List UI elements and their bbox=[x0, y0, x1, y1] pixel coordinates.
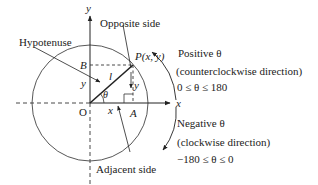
negative-rotation-arrow bbox=[163, 107, 176, 150]
negative-direction: (clockwise direction) bbox=[177, 136, 270, 149]
x-axis-label: x bbox=[175, 97, 181, 109]
adjacent-callout: Adjacent side bbox=[96, 163, 156, 175]
unit-circle-diagram: y x O B A P(x, y) y l y x θ Hypotenuse O… bbox=[0, 0, 318, 185]
hypotenuse-callout: Hypotenuse bbox=[19, 36, 72, 48]
hypotenuse-length-label: l bbox=[109, 70, 112, 82]
negative-title: Negative θ bbox=[177, 117, 225, 129]
opposite-length-label: y bbox=[133, 79, 139, 91]
opposite-leader bbox=[123, 25, 131, 68]
adjacent-leader bbox=[118, 106, 130, 152]
positive-direction: (counterclockwise direction) bbox=[176, 65, 302, 78]
origin-label: O bbox=[79, 106, 87, 118]
point-p-label: P(x, y) bbox=[134, 50, 165, 63]
point-a-label: A bbox=[129, 107, 137, 119]
theta-label: θ bbox=[103, 89, 108, 100]
left-y-label: y bbox=[80, 77, 86, 89]
positive-title: Positive θ bbox=[178, 47, 221, 59]
right-angle-mark bbox=[124, 94, 133, 103]
point-b-label: B bbox=[80, 59, 87, 71]
positive-range: 0 ≤ θ ≤ 180 bbox=[177, 81, 228, 93]
negative-range: −180 ≤ θ ≤ 0 bbox=[177, 153, 234, 165]
opposite-callout: Opposite side bbox=[100, 17, 160, 29]
adjacent-length-label: x bbox=[107, 104, 113, 116]
y-axis-label: y bbox=[85, 2, 91, 14]
